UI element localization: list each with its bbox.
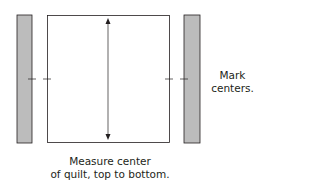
measure-caption-line1: Measure center xyxy=(40,155,180,168)
mark-centers-line2: centers. xyxy=(205,82,260,95)
mark-centers-line1: Mark xyxy=(205,69,260,82)
mark-centers-label: Mark centers. xyxy=(205,69,260,94)
measure-caption-line2: of quilt, top to bottom. xyxy=(40,168,180,181)
quilt-top xyxy=(48,16,170,143)
measure-center-caption: Measure center of quilt, top to bottom. xyxy=(40,155,180,180)
